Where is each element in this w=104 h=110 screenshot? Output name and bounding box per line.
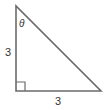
triangle-outline [16,6,101,91]
angle-theta-label: θ [19,18,25,29]
left-side-label: 3 [5,46,11,58]
triangle-diagram: θ 3 3 [0,0,104,110]
bottom-side-label: 3 [55,95,61,107]
right-angle-marker [16,82,25,91]
